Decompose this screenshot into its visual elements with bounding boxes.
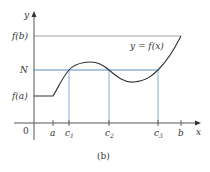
n-label: N xyxy=(19,65,29,75)
ivt-diagram: y x 0 f(b) N f(a) a c1 c2 c3 b y = f(x) … xyxy=(0,0,210,172)
origin-label: 0 xyxy=(23,126,29,136)
x-axis-arrow-icon xyxy=(195,121,201,126)
figure-caption: (b) xyxy=(97,151,110,161)
x-axis-label: x xyxy=(196,127,201,137)
fa-label: f(a) xyxy=(11,91,28,101)
y-axis-label: y xyxy=(23,10,30,20)
fb-label: f(b) xyxy=(11,31,29,41)
curve-label: y = f(x) xyxy=(129,41,164,51)
y-axis-arrow-icon xyxy=(32,11,37,17)
a-label: a xyxy=(50,128,55,138)
c1-label: c1 xyxy=(65,128,74,139)
c2-label: c2 xyxy=(105,128,114,139)
b-label: b xyxy=(178,128,184,138)
c3-label: c3 xyxy=(154,128,163,139)
